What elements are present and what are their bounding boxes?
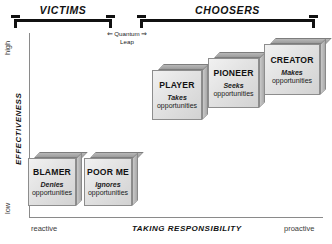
box-poor-me-object: opportunities [88, 189, 128, 197]
box-poor-me-title: POOR ME [87, 167, 129, 177]
box-player[interactable]: PLAYER Takes opportunities [152, 64, 208, 120]
arrow-right-icon: ⇒ [141, 30, 147, 37]
bracket-victims-bar [14, 19, 112, 22]
quantum-leap-row: ⇐ Quantum ⇒ [99, 30, 155, 38]
x-axis-title: TAKING RESPONSIBILITY [132, 224, 241, 233]
arrow-left-icon: ⇐ [107, 30, 113, 37]
x-axis-right-label: proactive [284, 224, 314, 233]
box-pioneer[interactable]: PIONEER Seeks opportunities [208, 52, 265, 108]
box-pioneer-object: opportunities [213, 90, 253, 98]
box-blamer-front-face: BLAMER Denies opportunities [28, 158, 76, 206]
bracket-choosers-label: CHOOSERS [140, 4, 315, 16]
bracket-choosers-tick-left [140, 19, 143, 28]
box-creator-side-face [320, 38, 326, 95]
box-poor-me[interactable]: POOR ME Ignores opportunities [84, 152, 138, 206]
y-axis-low-label: low [3, 203, 12, 214]
box-blamer-side-face [76, 152, 82, 206]
bracket-choosers-bar [140, 19, 315, 22]
quantum-leap-annotation: ⇐ Quantum ⇒ Leap [99, 30, 155, 45]
box-pioneer-verb: Seeks [223, 82, 243, 90]
bracket-victims-label: VICTIMS [14, 4, 112, 16]
box-creator-front-face: CREATOR Makes opportunities [264, 44, 320, 95]
bracket-choosers-tick-right [312, 19, 315, 28]
quantum-leap-line1: Quantum [114, 30, 139, 38]
bracket-choosers [140, 19, 315, 29]
box-player-title: PLAYER [159, 80, 194, 90]
box-player-verb: Takes [167, 94, 187, 102]
box-blamer-title: BLAMER [33, 167, 71, 177]
box-poor-me-verb: Ignores [95, 181, 120, 189]
box-player-object: opportunities [157, 102, 197, 110]
diagram-canvas: VICTIMS CHOOSERS ⇐ Quantum ⇒ Leap high l… [0, 0, 332, 244]
box-creator-title: CREATOR [270, 55, 313, 65]
box-creator-object: opportunities [272, 77, 312, 85]
bracket-victims-tick-right [109, 19, 112, 28]
box-creator[interactable]: CREATOR Makes opportunities [264, 38, 326, 95]
box-creator-verb: Makes [281, 69, 302, 77]
bracket-victims-tick-left [14, 19, 17, 28]
box-poor-me-side-face [132, 152, 138, 206]
box-pioneer-title: PIONEER [213, 68, 253, 78]
quantum-leap-line2: Leap [99, 38, 155, 46]
box-blamer[interactable]: BLAMER Denies opportunities [28, 152, 82, 206]
box-blamer-verb: Denies [41, 181, 64, 189]
x-axis-left-label: reactive [31, 224, 57, 233]
box-blamer-object: opportunities [32, 189, 72, 197]
box-player-front-face: PLAYER Takes opportunities [152, 70, 202, 120]
bracket-victims [14, 19, 112, 29]
x-axis-line [29, 217, 323, 218]
box-poor-me-front-face: POOR ME Ignores opportunities [84, 158, 132, 206]
y-axis-high-label: high [3, 41, 12, 55]
box-pioneer-front-face: PIONEER Seeks opportunities [208, 58, 259, 108]
y-axis-title: EFFECTIVENESS [14, 93, 23, 165]
